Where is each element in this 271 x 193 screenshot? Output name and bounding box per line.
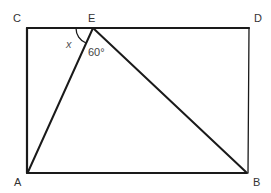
angle-x-arc [76,28,86,43]
angle-x-label: x [65,38,72,50]
geometry-diagram: C E D A B x 60° [0,0,271,193]
label-c: C [13,12,21,24]
label-d: D [254,12,262,24]
segment-eb [93,28,246,172]
label-b: B [253,176,260,188]
segment-ea [28,28,93,172]
triangle-aeb [28,28,246,172]
label-e: E [88,12,95,24]
angle-60-label: 60° [88,46,105,58]
label-a: A [14,176,22,188]
segment-db [248,28,249,173]
